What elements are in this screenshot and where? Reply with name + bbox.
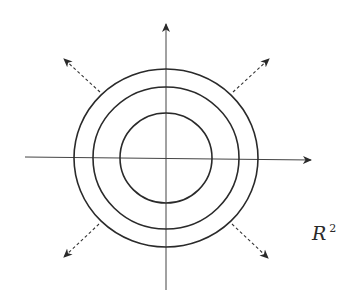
expansion-arrow-down-left xyxy=(64,224,99,257)
expansion-arrow-down-right xyxy=(232,224,268,258)
x-axis xyxy=(25,157,311,160)
space-label-superscript: 2 xyxy=(329,222,336,235)
space-label-r2: R2 xyxy=(312,222,336,244)
expansion-arrow-up-left xyxy=(64,59,100,92)
space-label-base: R xyxy=(312,222,326,244)
expansion-arrow-up-right xyxy=(233,59,269,92)
concentric-circles-diagram xyxy=(0,0,358,299)
